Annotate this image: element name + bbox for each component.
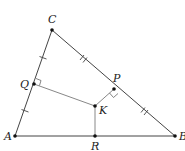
label-p: P — [112, 72, 121, 85]
label-b: B — [178, 130, 185, 143]
triangle-diagram: C A B P Q K R — [0, 0, 185, 151]
label-a: A — [3, 130, 12, 143]
point-r — [93, 134, 97, 138]
point-a — [13, 134, 17, 138]
label-q: Q — [20, 78, 29, 91]
tick-mark-qa — [22, 110, 29, 113]
segment-kq — [34, 84, 95, 106]
label-k: K — [98, 104, 108, 117]
point-c — [50, 28, 54, 32]
label-r: R — [90, 140, 99, 151]
point-p — [112, 87, 116, 91]
label-c: C — [48, 13, 57, 26]
point-q — [32, 82, 36, 86]
point-b — [173, 134, 177, 138]
point-k — [93, 104, 97, 108]
right-angle-marker-q — [36, 79, 41, 86]
right-angle-marker-p — [110, 93, 119, 98]
